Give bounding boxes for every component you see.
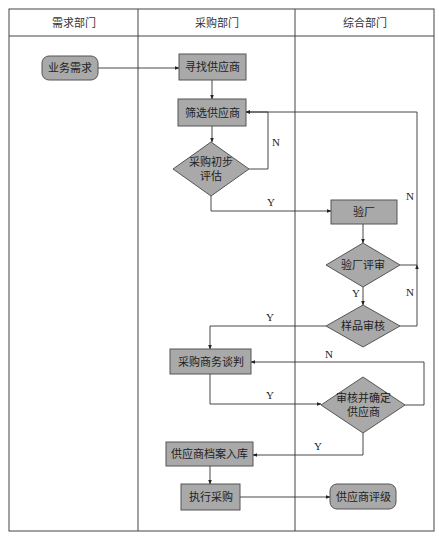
node-label: 供应商档案入库 — [171, 447, 248, 461]
edge-label-no: N — [272, 136, 280, 148]
node-label: 业务需求 — [48, 62, 92, 75]
node-n12-rounded[interactable]: 供应商评级 — [330, 484, 396, 509]
connector-n7-to-n8 — [210, 326, 326, 349]
lane-title-purchasing: 采购部门 — [195, 16, 239, 30]
node-n5-rect[interactable]: 验厂 — [331, 200, 397, 224]
node-n4-diamond[interactable]: 采购初步评估 — [173, 142, 249, 196]
node-label: 评估 — [200, 170, 222, 183]
edge-label-no: N — [406, 286, 414, 298]
node-label: 执行采购 — [189, 490, 233, 504]
node-n7-diamond[interactable]: 样品审核 — [326, 305, 400, 347]
node-n8-rect[interactable]: 采购商务谈判 — [170, 349, 251, 374]
node-label: 采购商务谈判 — [178, 355, 244, 369]
connector-n6-to-n3 — [246, 112, 417, 265]
edge-label-yes: Y — [267, 196, 275, 208]
node-n1-rounded[interactable]: 业务需求 — [42, 56, 98, 80]
connectors — [98, 68, 424, 497]
node-label: 采购初步 — [189, 155, 233, 169]
node-label: 筛选供应商 — [185, 106, 240, 120]
node-n9-diamond[interactable]: 审核并确定供应商 — [321, 377, 405, 433]
edge-label-no: N — [325, 348, 333, 360]
connector-n4-to-n3 — [246, 112, 268, 169]
node-n3-rect[interactable]: 筛选供应商 — [178, 99, 246, 126]
node-n2-rect[interactable]: 寻找供应商 — [179, 54, 246, 80]
edge-label-yes: Y — [266, 311, 274, 323]
node-label: 验厂评审 — [341, 258, 385, 272]
lane-title-general: 综合部门 — [343, 16, 387, 30]
node-label: 审核并确定 — [336, 391, 391, 405]
edge-label-yes: Y — [266, 389, 274, 401]
node-n6-diamond[interactable]: 验厂评审 — [326, 243, 400, 287]
flowchart-canvas: 需求部门采购部门综合部门 业务需求寻找供应商筛选供应商采购初步评估验厂验厂评审样… — [0, 0, 439, 541]
decision-diamond — [173, 142, 249, 196]
edge-label-no: N — [406, 190, 414, 202]
node-n11-rect[interactable]: 执行采购 — [181, 484, 240, 510]
node-label: 样品审核 — [341, 319, 385, 333]
node-label: 寻找供应商 — [185, 60, 240, 74]
edge-label-yes: Y — [314, 440, 322, 452]
edge-label-yes: Y — [352, 287, 360, 299]
node-label: 验厂 — [353, 205, 375, 219]
lane-title-demand: 需求部门 — [52, 16, 96, 30]
node-n10-rect[interactable]: 供应商档案入库 — [166, 442, 253, 466]
connector-n9-to-n10 — [253, 433, 363, 455]
node-label: 供应商 — [347, 405, 380, 419]
node-label: 供应商评级 — [336, 490, 391, 504]
decision-diamond — [321, 377, 405, 433]
flow-nodes: 业务需求寻找供应商筛选供应商采购初步评估验厂验厂评审样品审核采购商务谈判审核并确… — [42, 54, 405, 510]
